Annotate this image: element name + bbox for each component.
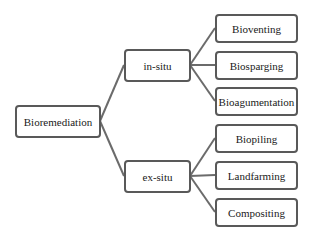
node-label: Biopiling bbox=[236, 133, 278, 145]
node-bioagumentation: Bioagumentation bbox=[215, 87, 298, 116]
node-label: Bioventing bbox=[232, 23, 281, 35]
node-label: ex-situ bbox=[143, 171, 173, 183]
edge-root-in-situ bbox=[100, 65, 124, 121]
edge-in-situ-bioventing bbox=[190, 28, 215, 65]
node-label: Bioremediation bbox=[24, 116, 92, 128]
node-label: Biosparging bbox=[230, 60, 284, 72]
edge-ex-situ-biopiling bbox=[190, 138, 215, 176]
node-label: Bioagumentation bbox=[219, 96, 295, 108]
edge-ex-situ-compositing bbox=[190, 176, 215, 212]
node-biosparging: Biosparging bbox=[215, 51, 298, 80]
node-label: Compositing bbox=[228, 207, 285, 219]
node-ex-situ: ex-situ bbox=[124, 160, 191, 193]
bioremediation-tree-diagram: Bioremediation in-situ ex-situ Bioventin… bbox=[0, 0, 317, 242]
edge-ex-situ-landfarming bbox=[190, 175, 215, 176]
node-label: Landfarming bbox=[228, 170, 285, 182]
node-compositing: Compositing bbox=[215, 198, 298, 227]
node-in-situ: in-situ bbox=[124, 49, 191, 82]
node-bioremediation: Bioremediation bbox=[15, 105, 101, 138]
node-biopiling: Biopiling bbox=[215, 124, 298, 153]
edge-root-ex-situ bbox=[100, 121, 124, 176]
edge-in-situ-bioagumentation bbox=[190, 65, 215, 101]
node-bioventing: Bioventing bbox=[215, 14, 298, 43]
node-label: in-situ bbox=[143, 60, 171, 72]
node-landfarming: Landfarming bbox=[215, 161, 298, 190]
